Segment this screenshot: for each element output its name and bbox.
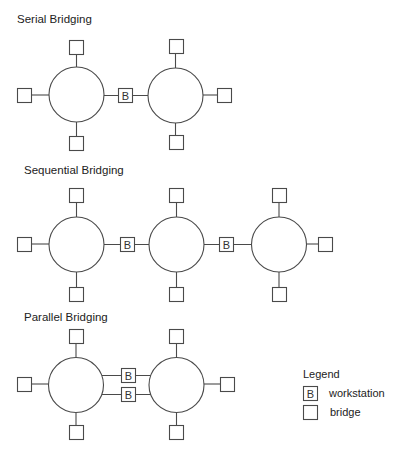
section-title-serial: Serial Bridging — [17, 13, 92, 25]
bridge-label: B — [125, 370, 132, 382]
station-node-icon — [70, 41, 84, 55]
ring-circle-icon — [148, 68, 203, 123]
ring-circle-icon — [149, 358, 204, 413]
station-node-icon — [319, 238, 333, 252]
bridge-label: B — [223, 239, 230, 251]
station-node-icon — [70, 189, 84, 203]
ring-circle-icon — [252, 217, 307, 272]
ring-network — [252, 189, 333, 302]
station-node-icon — [170, 136, 184, 150]
station-node-icon — [18, 89, 32, 103]
legend-empty-box-icon — [304, 406, 318, 420]
ring-circle-icon — [49, 358, 104, 413]
station-node-icon — [170, 189, 184, 203]
bridge-node: B — [220, 238, 234, 252]
station-node-icon — [170, 426, 184, 440]
ring-circle-icon — [49, 67, 104, 122]
legend-title: Legend — [303, 368, 340, 380]
legend-item-workstation: B workstation — [304, 387, 385, 401]
ring-circle-icon — [49, 217, 104, 272]
legend-label-bridge: bridge — [330, 406, 361, 418]
station-node-icon — [218, 89, 232, 103]
legend-item-bridge: bridge — [304, 406, 361, 420]
station-node-icon — [70, 288, 84, 302]
bridge-node: B — [122, 388, 136, 402]
sections-layer: Serial BridgingBSequential BridgingBBPar… — [17, 13, 333, 440]
section-title-parallel: Parallel Bridging — [24, 311, 108, 323]
section-parallel: Parallel BridgingBB — [18, 311, 235, 440]
bridge-node: B — [119, 89, 133, 103]
legend-b-symbol: B — [307, 388, 314, 400]
bridge-label: B — [124, 239, 131, 251]
ring-network — [18, 189, 105, 302]
station-node-icon — [273, 288, 287, 302]
ring-circle-icon — [149, 217, 204, 272]
station-node-icon — [170, 288, 184, 302]
station-node-icon — [170, 40, 184, 54]
station-node-icon — [170, 330, 184, 344]
legend: Legend B workstation bridge — [303, 368, 385, 420]
section-serial: Serial BridgingB — [17, 13, 232, 151]
ring-network — [18, 330, 104, 440]
section-title-sequential: Sequential Bridging — [24, 164, 124, 176]
station-node-icon — [273, 189, 287, 203]
ring-network — [149, 330, 235, 440]
bridging-diagram: Serial BridgingBSequential BridgingBBPar… — [0, 0, 395, 457]
bridge-label: B — [122, 90, 129, 102]
ring-network — [148, 40, 232, 150]
ring-network — [149, 189, 204, 302]
station-node-icon — [18, 238, 32, 252]
station-node-icon — [221, 378, 235, 392]
station-node-icon — [70, 426, 84, 440]
bridge-node: B — [121, 238, 135, 252]
station-node-icon — [70, 137, 84, 151]
section-sequential: Sequential BridgingBB — [18, 164, 333, 302]
bridge-label: B — [125, 389, 132, 401]
ring-network — [18, 41, 105, 151]
station-node-icon — [18, 378, 32, 392]
legend-label-workstation: workstation — [328, 387, 385, 399]
station-node-icon — [70, 330, 84, 344]
bridge-node: B — [122, 369, 136, 383]
